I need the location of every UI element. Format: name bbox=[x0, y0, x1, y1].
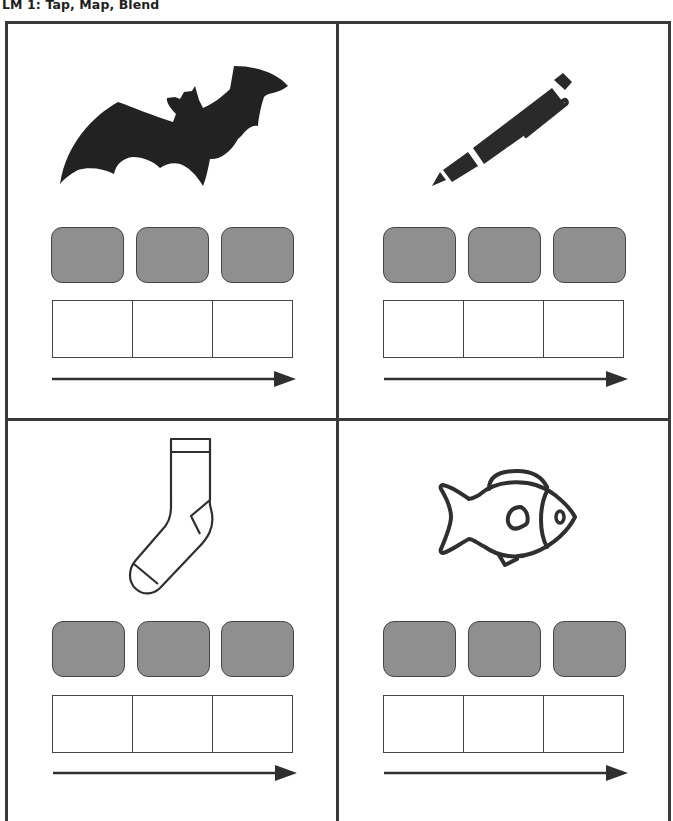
letter-boxes bbox=[52, 300, 293, 358]
fish-icon bbox=[437, 467, 579, 567]
letter-box-1[interactable] bbox=[384, 301, 464, 357]
grid-horizontal-divider bbox=[5, 418, 671, 421]
sound-tile-3[interactable] bbox=[553, 621, 626, 677]
sound-tile-1[interactable] bbox=[51, 227, 124, 283]
sock-icon bbox=[126, 436, 218, 600]
sound-tile-1[interactable] bbox=[383, 227, 456, 283]
sound-tile-3[interactable] bbox=[221, 621, 294, 677]
letter-box-3[interactable] bbox=[544, 696, 623, 752]
letter-box-2[interactable] bbox=[133, 696, 213, 752]
page-title: LM 1: Tap, Map, Blend bbox=[2, 0, 159, 12]
blend-arrow-icon bbox=[52, 371, 296, 387]
letter-boxes bbox=[383, 695, 624, 753]
letter-boxes bbox=[52, 695, 293, 753]
sound-tile-2[interactable] bbox=[137, 621, 210, 677]
sound-tile-1[interactable] bbox=[52, 621, 125, 677]
sound-tile-2[interactable] bbox=[468, 621, 541, 677]
letter-box-2[interactable] bbox=[133, 301, 213, 357]
letter-box-1[interactable] bbox=[384, 696, 464, 752]
sound-tile-3[interactable] bbox=[553, 227, 626, 283]
blend-arrow-icon bbox=[384, 371, 628, 387]
letter-box-1[interactable] bbox=[53, 696, 133, 752]
sound-tile-2[interactable] bbox=[136, 227, 209, 283]
letter-box-3[interactable] bbox=[213, 301, 292, 357]
letter-box-2[interactable] bbox=[464, 696, 544, 752]
sound-tile-1[interactable] bbox=[383, 621, 456, 677]
sound-tile-3[interactable] bbox=[221, 227, 294, 283]
grid-vertical-divider bbox=[336, 21, 339, 821]
letter-box-1[interactable] bbox=[53, 301, 133, 357]
sound-tile-2[interactable] bbox=[468, 227, 541, 283]
letter-box-3[interactable] bbox=[544, 301, 623, 357]
letter-box-3[interactable] bbox=[213, 696, 292, 752]
letter-boxes bbox=[383, 300, 624, 358]
letter-box-2[interactable] bbox=[464, 301, 544, 357]
bat-icon bbox=[58, 64, 290, 188]
blend-arrow-icon bbox=[384, 765, 628, 781]
blend-arrow-icon bbox=[53, 765, 297, 781]
pen-icon bbox=[430, 68, 578, 190]
